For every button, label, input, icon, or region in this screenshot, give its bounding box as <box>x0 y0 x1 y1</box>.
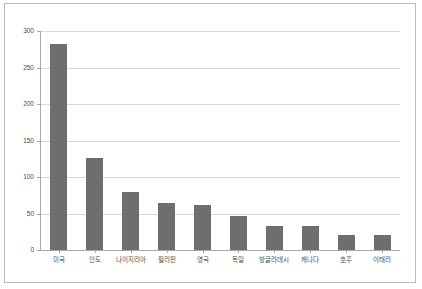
x-tick-mark <box>95 250 96 253</box>
chart-frame: 050100150200250300 미국인도나이지리아필리핀영국독일방글라데시… <box>4 3 416 283</box>
y-tick-label: 300 <box>23 28 34 35</box>
x-tick-label: 호주 <box>340 257 352 264</box>
x-tick-label: 인도 <box>89 257 101 264</box>
y-tick-label: 0 <box>30 247 34 254</box>
x-tick-label: 영국 <box>197 257 209 264</box>
y-tick-label: 200 <box>23 101 34 108</box>
x-tick-label: 방글라데시 <box>259 257 289 264</box>
bar <box>266 226 283 250</box>
x-tick-mark <box>346 250 347 253</box>
x-tick-label: 이태리 <box>373 257 391 264</box>
bar <box>302 226 319 250</box>
bar <box>86 158 103 250</box>
bar <box>338 235 355 250</box>
x-tick-label: 미국 <box>53 257 65 264</box>
bar <box>374 235 391 250</box>
y-tick-label: 150 <box>23 137 34 144</box>
x-tick-label: 필리핀 <box>158 257 176 264</box>
x-tick-mark <box>203 250 204 253</box>
x-tick-label: 나이지리아 <box>116 257 146 264</box>
bar <box>230 216 247 250</box>
bar <box>194 205 211 250</box>
x-tick-mark <box>382 250 383 253</box>
x-tick-mark <box>274 250 275 253</box>
bar <box>50 44 67 250</box>
x-tick-mark <box>59 250 60 253</box>
y-tick-mark <box>37 250 41 251</box>
x-tick-mark <box>131 250 132 253</box>
y-tick-label: 50 <box>27 210 34 217</box>
x-tick-mark <box>238 250 239 253</box>
x-tick-mark <box>167 250 168 253</box>
y-tick-label: 100 <box>23 174 34 181</box>
y-tick-label: 250 <box>23 64 34 71</box>
bar <box>122 192 139 250</box>
x-tick-label: 캐나다 <box>301 257 319 264</box>
x-tick-label: 독일 <box>232 257 244 264</box>
bars-layer <box>41 31 400 250</box>
bar <box>158 203 175 250</box>
x-tick-mark <box>310 250 311 253</box>
plot-area: 050100150200250300 미국인도나이지리아필리핀영국독일방글라데시… <box>40 31 400 251</box>
